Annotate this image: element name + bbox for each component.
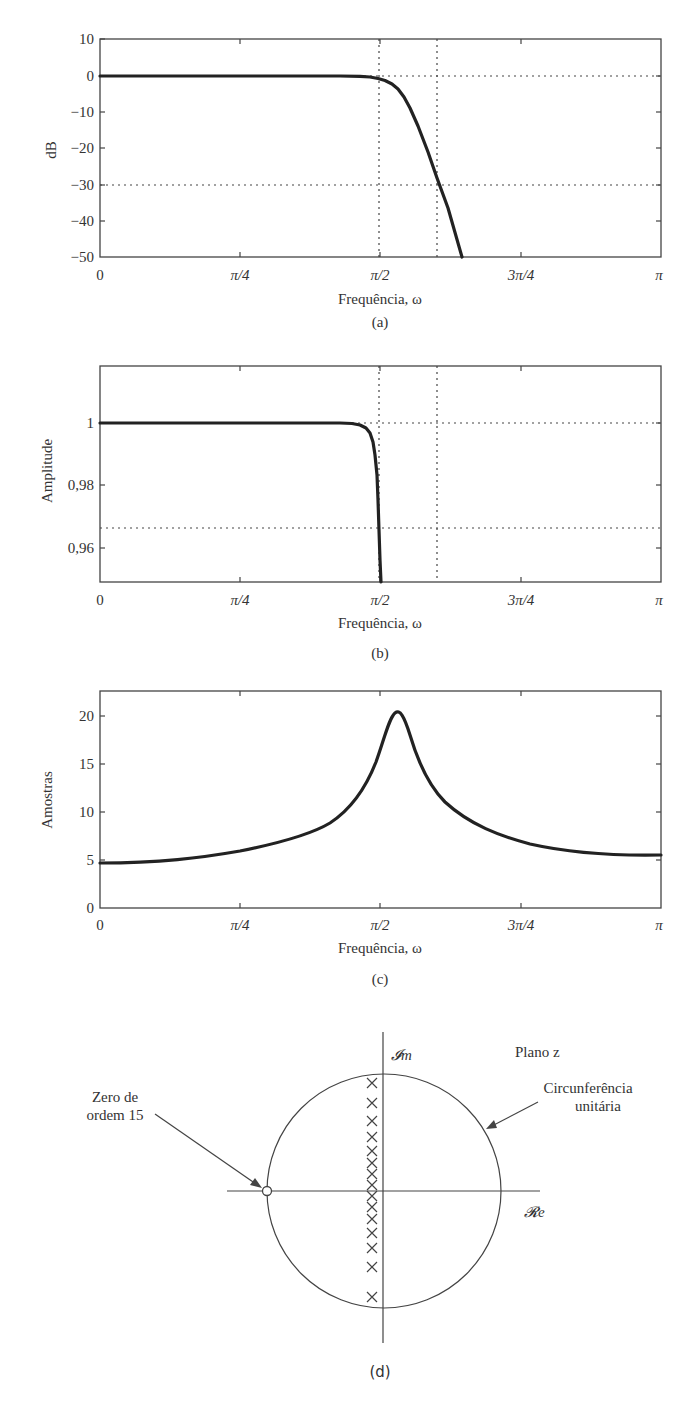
svg-text:0: 0: [96, 267, 104, 283]
y-axis-label: Amplitude: [39, 439, 55, 504]
y-tick-labels: 20 15 10 5 0: [79, 708, 94, 916]
axes-box: [100, 39, 661, 257]
x-tick-labels: 0 π/4 π/2 3π/4 π: [96, 917, 663, 933]
zero-marker: [263, 1187, 272, 1196]
tick-marks: [100, 691, 661, 908]
svg-text:−20: −20: [71, 140, 94, 156]
svg-text:1: 1: [87, 415, 95, 431]
svg-text:20: 20: [79, 708, 94, 724]
svg-text:0: 0: [87, 900, 95, 916]
svg-text:−10: −10: [71, 104, 94, 120]
y-axis-label: Amostras: [39, 771, 55, 829]
svg-text:−30: −30: [71, 177, 94, 193]
z-plane-label: Plano z: [515, 1044, 560, 1060]
db-magnitude-curve: [100, 76, 462, 257]
panel-caption: (c): [372, 971, 389, 988]
svg-text:−40: −40: [71, 213, 94, 229]
x-axis-label: Frequência, ω: [338, 291, 422, 307]
svg-text:π/2: π/2: [370, 267, 390, 283]
svg-text:0: 0: [87, 68, 95, 84]
panel-a-db-magnitude: 10 0 −10 −20 −30 −40 −50 0 π/4 π/2 3π/4 …: [43, 31, 663, 331]
figure-canvas: 10 0 −10 −20 −30 −40 −50 0 π/4 π/2 3π/4 …: [0, 0, 689, 1401]
svg-text:3π/4: 3π/4: [507, 592, 535, 608]
svg-text:π/4: π/4: [230, 267, 250, 283]
zero-annotation-arrow: [155, 1114, 262, 1188]
svg-text:3π/4: 3π/4: [507, 917, 535, 933]
x-axis-label: Frequência, ω: [338, 940, 422, 956]
imaginary-axis-label: 𝓘m: [391, 1047, 412, 1063]
panel-c-group-delay: 20 15 10 5 0 0 π/4 π/2 3π/4 π Amostras F…: [39, 691, 663, 988]
svg-text:π: π: [655, 592, 663, 608]
svg-text:0: 0: [96, 917, 104, 933]
svg-text:0,98: 0,98: [68, 477, 94, 493]
x-tick-labels: 0 π/4 π/2 3π/4 π: [96, 592, 663, 608]
svg-text:π/4: π/4: [230, 592, 250, 608]
zero-label-line2: ordem 15: [86, 1107, 143, 1123]
real-axis-label: 𝓡e: [524, 1204, 545, 1220]
svg-text:0: 0: [96, 592, 104, 608]
x-tick-labels: 0 π/4 π/2 3π/4 π: [96, 267, 663, 283]
svg-text:3π/4: 3π/4: [507, 267, 535, 283]
svg-text:0,96: 0,96: [68, 540, 95, 556]
svg-text:π/4: π/4: [230, 917, 250, 933]
amplitude-curve: [100, 423, 381, 582]
zero-label-line1: Zero de: [92, 1089, 139, 1105]
unit-circle-label-line1: Circunferência: [543, 1080, 632, 1096]
axes-box: [100, 691, 661, 908]
group-delay-curve: [100, 712, 661, 863]
svg-text:π: π: [655, 917, 663, 933]
panel-d-pole-zero-plot: 𝓘m 𝓡e Plano z Circunferência unitária Ze…: [86, 1032, 632, 1381]
y-axis-label: dB: [43, 141, 59, 159]
svg-text:π/2: π/2: [370, 592, 390, 608]
svg-text:15: 15: [79, 756, 94, 772]
panel-caption: (a): [372, 314, 389, 331]
pole-markers: [367, 1078, 377, 1302]
circle-annotation-arrow: [486, 1102, 538, 1129]
x-axis-label: Frequência, ω: [338, 615, 422, 631]
svg-text:−50: −50: [71, 249, 94, 265]
y-tick-labels: 1 0,98 0,96: [68, 415, 95, 556]
svg-text:10: 10: [79, 31, 94, 47]
svg-text:π: π: [655, 267, 663, 283]
y-tick-labels: 10 0 −10 −20 −30 −40 −50: [71, 31, 94, 265]
unit-circle-label-line2: unitária: [575, 1098, 621, 1114]
panel-caption: (b): [371, 645, 389, 662]
svg-text:10: 10: [79, 804, 94, 820]
panel-caption: (d): [369, 1363, 390, 1381]
panel-b-amplitude-detail: 1 0,98 0,96 0 π/4 π/2 3π/4 π Amplitude F…: [39, 366, 663, 662]
tick-marks: [100, 39, 661, 257]
svg-text:5: 5: [87, 852, 95, 868]
svg-text:π/2: π/2: [370, 917, 390, 933]
